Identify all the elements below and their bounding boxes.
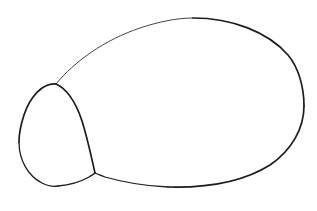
drawing-canvas xyxy=(0,0,317,211)
canvas-background xyxy=(0,0,317,211)
line-drawing-svg xyxy=(0,0,317,211)
